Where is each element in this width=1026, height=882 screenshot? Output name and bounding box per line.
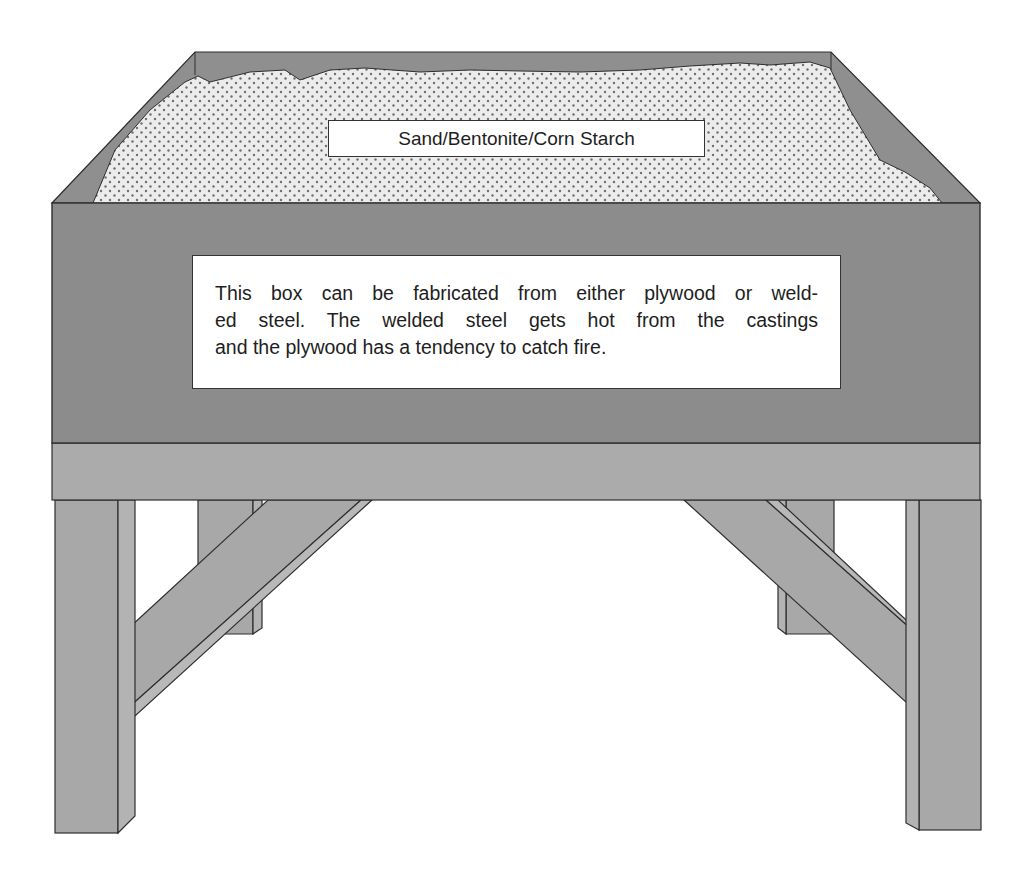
right-diagonal-brace [684, 500, 919, 714]
front-left-leg [55, 500, 135, 833]
note-line-2: ed steel. The welded steel gets hot from… [215, 307, 818, 334]
left-diagonal-brace [118, 500, 372, 717]
top-rail [52, 443, 980, 500]
front-right-leg [906, 500, 981, 830]
note-line-3: and the plywood has a tendency to catch … [215, 334, 818, 361]
note-line-1: This box can be fabricated from either p… [215, 280, 818, 307]
fabrication-note: This box can be fabricated from either p… [192, 255, 841, 389]
sand-mixture-label: Sand/Bentonite/Corn Starch [328, 120, 705, 157]
